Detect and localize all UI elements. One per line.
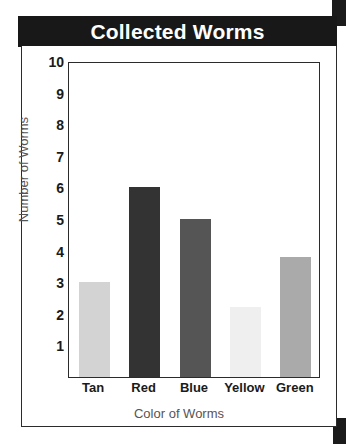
y-tick-label: 1: [56, 339, 64, 353]
x-tick-label: Blue: [180, 381, 208, 394]
y-tick-label: 6: [56, 181, 64, 195]
bar-blue: [180, 219, 211, 377]
y-tick-label: 8: [56, 118, 64, 132]
y-tick-label: 10: [48, 55, 64, 69]
y-tick-label: 5: [56, 213, 64, 227]
y-tick-label: 2: [56, 308, 64, 322]
x-tick-label: Red: [131, 381, 156, 394]
bar-red: [129, 187, 160, 377]
y-tick-label: 9: [56, 87, 64, 101]
y-tick-label: 7: [56, 150, 64, 164]
x-tick-label: Yellow: [224, 381, 264, 394]
x-tick-label: Tan: [82, 381, 104, 394]
y-tick-label: 3: [56, 276, 64, 290]
bar-series: [69, 63, 319, 377]
y-axis-tick-labels: 12345678910: [40, 62, 64, 378]
plot-area: [68, 62, 320, 378]
y-axis-title: Number of Worms: [16, 100, 31, 240]
bar-green: [280, 257, 311, 377]
bar-tan: [79, 282, 110, 377]
x-axis-title: Color of Worms: [21, 406, 337, 421]
chart-title-banner: Collected Worms: [18, 16, 337, 47]
x-tick-label: Green: [276, 381, 314, 394]
x-axis-tick-labels: TanRedBlueYellowGreen: [68, 381, 320, 401]
y-tick-label: 4: [56, 245, 64, 259]
page-title: Collected Worms: [90, 21, 264, 42]
bar-yellow: [230, 307, 261, 377]
